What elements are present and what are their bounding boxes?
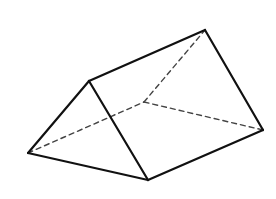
edge-BC xyxy=(89,81,148,180)
edge-CA xyxy=(28,153,148,180)
prism-diagram xyxy=(0,0,276,199)
hidden-edge-FE xyxy=(144,102,263,130)
edge-AB xyxy=(28,81,89,153)
visible-edges xyxy=(28,30,263,180)
edge-EC xyxy=(148,130,263,180)
edge-BD xyxy=(89,30,205,81)
edge-DE xyxy=(205,30,263,130)
hidden-edges xyxy=(28,30,263,153)
hidden-edge-FD xyxy=(144,30,205,102)
prism-svg xyxy=(0,0,276,199)
